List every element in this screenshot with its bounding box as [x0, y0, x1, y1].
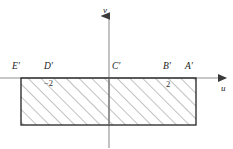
diagram-canvas	[0, 0, 233, 149]
tick-label-negative-two: −2	[44, 79, 53, 88]
point-label-c-prime: C′	[112, 62, 120, 72]
point-label-d-prime: D′	[44, 62, 53, 72]
tick-label-positive-two: 2	[166, 80, 170, 89]
v-axis-label: v	[103, 6, 107, 15]
point-label-e-prime: E′	[12, 62, 20, 72]
uv-plane-figure: v u E′ D′ C′ B′ A′ −2 2	[0, 0, 233, 149]
point-label-b-prime: B′	[163, 62, 171, 72]
point-label-a-prime: A′	[185, 62, 193, 72]
u-axis-label: u	[221, 84, 226, 93]
